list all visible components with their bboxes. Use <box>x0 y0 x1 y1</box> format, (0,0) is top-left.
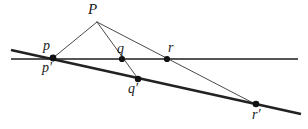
point-label-q: q <box>117 42 124 56</box>
point-label-P: P <box>88 2 97 17</box>
point-label-q-prime: q′ <box>128 82 138 96</box>
point-dot-r <box>164 56 170 62</box>
point-label-p-prime: p′ <box>42 61 52 75</box>
rays-from-P <box>53 22 257 105</box>
ray-P-to-rprime-line <box>97 22 257 105</box>
point-dot-q <box>119 56 125 62</box>
point-label-p: p <box>43 39 50 53</box>
ray-P-to-p-line <box>53 22 97 58</box>
projective-correspondence-figure: P p p′ q q′ r r′ <box>0 0 308 129</box>
point-label-r: r <box>168 41 173 55</box>
point-label-r-prime: r′ <box>252 108 261 122</box>
